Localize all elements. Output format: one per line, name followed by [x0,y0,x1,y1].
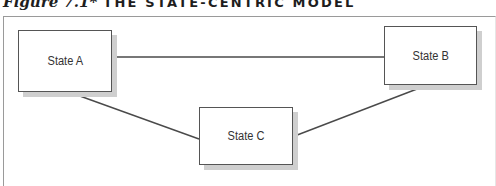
edge-a-c [66,91,199,139]
node-state-b-label: State B [412,49,448,63]
edge-b-c [292,84,430,137]
node-state-a: State A [18,30,112,92]
node-state-c: State C [199,107,293,165]
node-state-b: State B [384,26,477,85]
node-state-c-label: State C [228,129,265,143]
node-state-a-label: State A [47,54,83,68]
